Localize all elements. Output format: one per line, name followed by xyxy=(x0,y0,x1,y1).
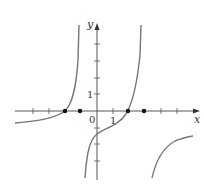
right-branch xyxy=(152,136,193,178)
origin-label: 0 xyxy=(89,114,95,125)
x-axis xyxy=(15,108,200,114)
point-x-3 xyxy=(142,109,146,113)
x-axis-label: x xyxy=(194,113,201,126)
y-axis-label: y xyxy=(86,18,94,31)
y-unit-label: 1 xyxy=(87,89,93,100)
point-x-neg2 xyxy=(63,109,67,113)
function-graph: y x 0 1 1 xyxy=(0,0,204,190)
point-x-neg1 xyxy=(78,109,82,113)
point-x-2 xyxy=(126,109,130,113)
y-axis xyxy=(94,23,100,180)
function-curve xyxy=(15,25,193,178)
middle-branch xyxy=(85,25,141,178)
left-branch xyxy=(15,25,79,123)
